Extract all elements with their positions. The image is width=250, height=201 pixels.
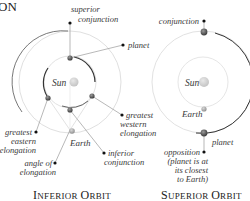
superior-orbit-diagram: conjunction planet Sun Earth planet oppo… [152,16,250,201]
label-earth: Earth [69,138,91,148]
title-inferior-orbit: INFERIOR ORBIT [33,188,111,201]
svg-text:elongation: elongation [0,145,36,155]
planet-inferior-conjunction-icon [67,107,72,112]
heading-fragment: ON [0,0,17,14]
sun-icon [70,78,79,87]
planet-greatest-western-icon [89,93,94,98]
label-planet: planet [127,40,150,50]
planet-conjunction-icon [201,29,208,36]
earth-icon [69,128,75,134]
label-sun: Sun [185,78,200,88]
svg-text:conjunction: conjunction [104,157,144,167]
planet-superior-conjunction-icon [67,55,72,60]
planet-orbit-arrow-arc-bottom [62,101,88,108]
svg-text:elongation: elongation [20,167,56,177]
orbit-diagram: ON superio [0,0,250,201]
planet-opposition-icon [201,130,208,137]
label-conjunction: conjunction [159,16,199,26]
label-sun: Sun [52,78,67,88]
label-planet-opposition: planet [211,137,234,147]
svg-text:to Earth): to Earth) [177,174,208,184]
svg-text:elongation: elongation [120,128,156,138]
sun-icon [199,77,209,87]
planet-greatest-eastern-icon [45,95,50,100]
label-superior-conjunction: superior [71,4,101,14]
label-earth: Earth [181,109,203,119]
label-superior-conjunction-2: conjunction [78,14,118,24]
inferior-orbit-diagram: superior conjunction planet Sun greatest… [0,4,156,201]
title-superior-orbit: SUPERIOR ORBIT [161,188,242,201]
